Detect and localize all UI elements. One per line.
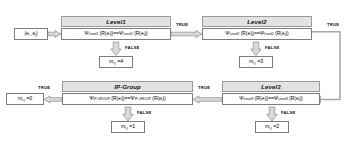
level1-false-result-label: mi,j =4 (109, 59, 123, 65)
diagram-canvas: (ei ,ej) Level1 ΨLevel1 (R(ei))==ΨLevel1… (0, 0, 353, 151)
ipgroup-false-result-box[interactable]: mi,j =1 (111, 121, 145, 133)
level2-false-result-box[interactable]: mi,j =3 (239, 56, 273, 68)
arrow-ipgroup-false-down (123, 107, 133, 121)
level2-false-label: FALSE (265, 45, 280, 50)
arrow-level1-false-down (111, 42, 121, 56)
level3-header: Level3 (222, 81, 320, 92)
final-output-box[interactable]: mi,j =0 (6, 93, 44, 105)
ipgroup-false-label: FALSE (137, 110, 152, 115)
level1-header-label: Level1 (106, 19, 125, 25)
level2-header-label: Level2 (247, 19, 266, 25)
level1-condition-box[interactable]: ΨLevel1 (R(ei))==ΨLevel1 (R(ej)) (61, 28, 171, 40)
level3-false-result-box[interactable]: mi,j =2 (255, 121, 289, 133)
arrow-input-to-level1 (48, 30, 61, 37)
level2-header: Level2 (202, 16, 312, 27)
arrow-level2-false-down (251, 42, 261, 56)
final-output-label: mi,j =0 (18, 96, 32, 102)
level3-false-label: FALSE (281, 110, 296, 115)
input-entity-pair-box[interactable]: (ei ,ej) (14, 28, 48, 40)
ipgroup-header-label: IP-Group (114, 84, 140, 90)
level3-condition-label: ΨLevel3 (R(ei))==ΨLevel3 (R(ej)) (239, 96, 302, 102)
ipgroup-header: IP-Group (62, 81, 193, 92)
arrow-level3-false-down (267, 107, 277, 121)
level1-false-result-box[interactable]: mi,j =4 (99, 56, 133, 68)
level2-condition-label: ΨLevel2 (R(ei))==ΨLevel2 (R(ej)) (225, 31, 288, 37)
level1-false-label: FALSE (125, 45, 140, 50)
level3-condition-box[interactable]: ΨLevel3 (R(ei))==ΨLevel3 (R(ej)) (222, 93, 320, 105)
ipgroup-false-result-label: mi,j =1 (121, 124, 135, 130)
level3-false-result-label: mi,j =2 (265, 124, 279, 130)
input-entity-pair-label: (ei ,ej) (24, 31, 37, 37)
ipgroup-condition-label: ΨIP-GROUP (R(ei))==ΨIP-GROUP (R(ej)) (89, 96, 166, 102)
level1-header: Level1 (61, 16, 171, 27)
level1-true-label: TRUE (176, 22, 188, 27)
ipgroup-true-label: TRUE (38, 85, 50, 90)
ipgroup-condition-box[interactable]: ΨIP-GROUP (R(ei))==ΨIP-GROUP (R(ej)) (62, 93, 193, 105)
level2-false-result-label: mi,j =3 (249, 59, 263, 65)
level3-header-label: Level3 (261, 84, 280, 90)
level2-true-label: TRUE (327, 22, 339, 27)
level1-condition-label: ΨLevel1 (R(ei))==ΨLevel1 (R(ej)) (84, 31, 147, 37)
level3-true-label: TRUE (198, 85, 210, 90)
arrow-level1-true-to-level2 (171, 30, 202, 37)
arrow-ipgroup-true-to-output (44, 96, 62, 103)
level2-condition-box[interactable]: ΨLevel2 (R(ei))==ΨLevel2 (R(ej)) (202, 28, 312, 40)
arrow-level3-true-to-ipgroup (193, 96, 222, 103)
